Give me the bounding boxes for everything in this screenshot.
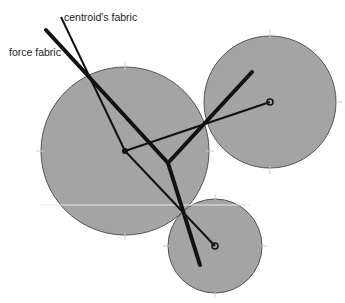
centroid-fabric-label: centroid's fabric xyxy=(64,11,137,23)
force-fabric-label: force fabric xyxy=(9,46,61,58)
centroid-large-left xyxy=(122,148,128,154)
